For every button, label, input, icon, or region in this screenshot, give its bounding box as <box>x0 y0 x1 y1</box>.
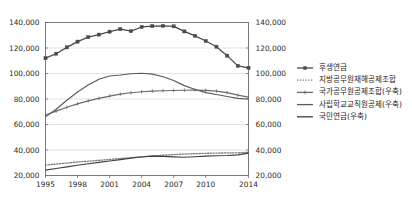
data-point-marker <box>87 36 90 39</box>
legend-label: 국민연금(우축) <box>319 111 367 121</box>
y-axis-right: 20,00040,00060,00080,000100,000120,00014… <box>246 18 286 180</box>
data-point-marker <box>108 30 111 33</box>
y-axis-right-tick-label: 100,000 <box>256 69 287 78</box>
series-line <box>46 152 249 165</box>
chart-legend: 후생연금지방공무원재해공제조합국가공무원공제조합(우축)사립학교교직원공제(우축… <box>297 62 402 121</box>
y-axis-left-tick-label: 120,000 <box>9 44 40 53</box>
data-point-marker <box>226 54 229 57</box>
y-axis-right-tick-label: 120,000 <box>256 44 287 53</box>
legend-item[interactable]: 지방공무원재해공제조합 <box>297 74 396 84</box>
legend-label: 국가공무원공제조합(우축) <box>319 87 402 96</box>
legend-label: 지방공무원재해공제조합 <box>319 74 396 84</box>
data-point-marker <box>247 66 250 69</box>
data-point-marker <box>44 57 47 60</box>
y-axis-right-tick-label: 140,000 <box>256 18 287 27</box>
legend-marker <box>303 66 306 69</box>
data-point-marker <box>151 24 154 27</box>
data-point-marker <box>55 52 58 55</box>
data-point-marker <box>140 25 143 28</box>
x-axis-tick-label: 1998 <box>68 180 87 189</box>
data-point-marker <box>204 39 207 42</box>
x-axis-tick-label: 2007 <box>164 180 183 189</box>
x-axis-tick-label: 1995 <box>36 180 55 189</box>
data-point-marker <box>236 64 239 67</box>
data-point-marker <box>97 33 100 36</box>
x-axis: 1995199820012004200720102014 <box>36 176 258 189</box>
x-axis-tick-label: 2001 <box>100 180 119 189</box>
data-point-marker <box>129 30 132 33</box>
series-3 <box>46 73 249 117</box>
x-axis-tick-label: 2014 <box>239 180 258 189</box>
legend-label: 후생연금 <box>319 62 347 72</box>
data-point-marker <box>119 28 122 31</box>
legend-item[interactable]: 사립학교교직원공제(우축) <box>297 99 402 109</box>
y-axis-right-tick-label: 40,000 <box>256 146 282 155</box>
data-series-group <box>44 24 250 170</box>
y-axis-right-tick-label: 60,000 <box>256 120 282 129</box>
y-axis-left: 20,00040,00060,00080,000100,000120,00014… <box>9 18 48 180</box>
x-axis-tick-label: 2004 <box>132 180 151 189</box>
line-chart: 20,00040,00060,00080,000100,000120,00014… <box>0 0 412 199</box>
legend-item[interactable]: 국가공무원공제조합(우축) <box>297 87 402 96</box>
legend-item[interactable]: 후생연금 <box>297 62 347 72</box>
legend-item[interactable]: 국민연금(우축) <box>297 111 367 121</box>
chart-container: 20,00040,00060,00080,000100,000120,00014… <box>0 0 412 199</box>
y-axis-left-tick-label: 80,000 <box>14 95 40 104</box>
y-axis-left-tick-label: 140,000 <box>9 18 40 27</box>
data-point-marker <box>172 25 175 28</box>
x-axis-tick-label: 2010 <box>196 180 215 189</box>
legend-label: 사립학교교직원공제(우축) <box>319 99 402 109</box>
data-point-marker <box>76 40 79 43</box>
series-0 <box>44 24 250 69</box>
series-line <box>46 73 249 117</box>
data-point-marker <box>193 34 196 37</box>
data-point-marker <box>161 24 164 27</box>
data-point-marker <box>215 45 218 48</box>
y-axis-left-tick-label: 100,000 <box>9 69 40 78</box>
y-axis-left-tick-label: 40,000 <box>14 146 40 155</box>
data-point-marker <box>183 30 186 33</box>
data-point-marker <box>65 46 68 49</box>
y-axis-right-tick-label: 20,000 <box>256 171 282 180</box>
series-1 <box>46 152 249 165</box>
y-axis-left-tick-label: 60,000 <box>14 120 40 129</box>
y-axis-right-tick-label: 80,000 <box>256 95 282 104</box>
